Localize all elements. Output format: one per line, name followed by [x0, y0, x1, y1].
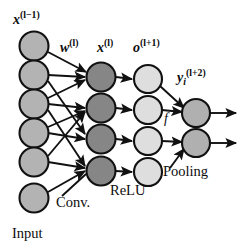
label-input-layer-symbol: x(l−1) [13, 10, 40, 27]
label-pooling-operation: Pooling [163, 164, 208, 179]
neural-network-diagram: x(l−1) w(l) x(l) o(l+1) yi(l+2) f Conv. … [0, 0, 244, 248]
node-pooling-2 [182, 129, 210, 157]
node-conv-1 [87, 63, 116, 92]
node-input-6 [20, 184, 49, 213]
label-pooling-output-symbol: yi(l+2) [177, 68, 206, 87]
edges-relu-to-pooling [160, 86, 184, 168]
label-conv-operation: Conv. [56, 195, 90, 210]
node-input-1 [20, 32, 49, 61]
label-relu-operation: ReLU [110, 183, 145, 198]
layer-pooling-nodes [182, 99, 210, 157]
node-input-2 [20, 61, 49, 90]
node-relu-3 [134, 127, 162, 155]
edges-conv-to-relu [116, 77, 132, 172]
layer-input-nodes [20, 32, 49, 213]
layer-conv-nodes [87, 63, 116, 186]
node-conv-2 [87, 94, 116, 123]
node-relu-1 [134, 65, 162, 93]
label-input-caption: Input [12, 226, 43, 241]
node-relu-2 [134, 96, 162, 124]
label-conv-output-symbol: x(l) [97, 38, 113, 55]
layer-relu-nodes [134, 65, 162, 186]
label-relu-output-symbol: o(l+1) [133, 38, 160, 55]
node-input-4 [20, 119, 49, 148]
edges-pooling-output [210, 113, 236, 143]
network-graphics [0, 0, 244, 248]
label-weight-symbol: w(l) [60, 38, 79, 55]
node-pooling-1 [182, 99, 210, 127]
edges-input-to-conv [48, 52, 86, 192]
label-activation-function: f [164, 112, 168, 126]
node-conv-3 [87, 125, 116, 154]
node-input-5 [20, 148, 49, 177]
node-input-3 [20, 90, 49, 119]
